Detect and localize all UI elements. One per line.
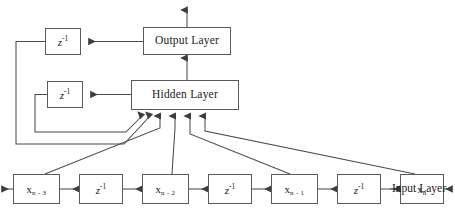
delay-exponent: -1 xyxy=(229,182,235,191)
hidden-feedback-delay-label: z-1 xyxy=(60,88,71,101)
tap-subscript: n - 3 xyxy=(32,189,46,197)
hidden-feedback-delay-box[interactable]: z-1 xyxy=(47,81,83,108)
output-layer-box[interactable]: Output Layer xyxy=(143,27,231,55)
input-tap-label: xn - 2 xyxy=(156,184,176,195)
delay-exponent: -1 xyxy=(100,182,106,191)
delay-exponent: -1 xyxy=(358,182,364,191)
hidden-layer-box[interactable]: Hidden Layer xyxy=(131,80,239,110)
input-tap-label: xn - 1 xyxy=(285,184,305,195)
delay-exponent: -1 xyxy=(62,34,68,43)
wire-tap-xn-to-hidden xyxy=(205,116,415,174)
wire-tap-xn-3-to-hidden xyxy=(45,116,160,174)
input-tap-label: xn - 3 xyxy=(27,184,47,195)
input-tap-x-n-3[interactable]: xn - 3 xyxy=(13,174,60,204)
input-delay-2[interactable]: z-1 xyxy=(208,174,252,204)
hidden-layer-label: Hidden Layer xyxy=(152,89,218,101)
diagram-canvas: Output Layer Hidden Layer z-1 z-1 xn - 3… xyxy=(0,0,455,212)
input-delay-label: z-1 xyxy=(96,183,107,196)
wire-tap-xn-2-to-hidden xyxy=(172,116,175,174)
input-delay-label: z-1 xyxy=(225,183,236,196)
output-feedback-delay-box[interactable]: z-1 xyxy=(45,28,81,55)
input-tap-x-n-1[interactable]: xn - 1 xyxy=(271,174,318,204)
delay-exponent: -1 xyxy=(64,87,70,96)
input-layer-annotation: Input Layer xyxy=(392,183,446,195)
input-delay-label: z-1 xyxy=(354,183,365,196)
tap-subscript: n - 1 xyxy=(290,189,304,197)
tap-subscript: n - 2 xyxy=(161,189,175,197)
output-layer-label: Output Layer xyxy=(155,35,219,47)
input-delay-3[interactable]: z-1 xyxy=(79,174,123,204)
output-feedback-delay-label: z-1 xyxy=(58,35,69,48)
input-tap-x-n-2[interactable]: xn - 2 xyxy=(142,174,189,204)
input-delay-1[interactable]: z-1 xyxy=(337,174,381,204)
